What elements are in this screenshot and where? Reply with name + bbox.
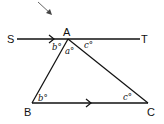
label-s: S xyxy=(7,33,14,45)
angle-abc: b° xyxy=(38,93,48,103)
pointer-arrow-icon xyxy=(38,2,52,15)
geometry-diagram: S T A B C b° a° c° b° c° xyxy=(0,0,164,124)
label-b: B xyxy=(24,106,31,118)
label-a: A xyxy=(63,26,71,38)
label-c: C xyxy=(147,106,155,118)
angle-bca: c° xyxy=(123,92,132,102)
angle-bac: a° xyxy=(65,46,74,56)
angle-sab: b° xyxy=(52,42,62,52)
angle-tac: c° xyxy=(84,40,93,50)
label-t: T xyxy=(141,33,148,45)
side-ac xyxy=(68,39,148,103)
